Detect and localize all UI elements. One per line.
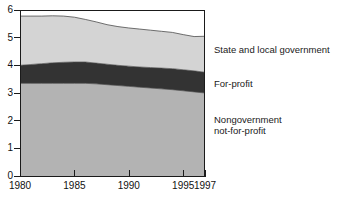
y-tick-mark-0	[14, 176, 20, 177]
series-label-nongovernment-not-for-profit: Nongovernment not-for-profit	[214, 114, 282, 136]
y-tick-label-6: 6	[1, 5, 13, 15]
x-tick-label-1990: 1990	[112, 180, 146, 191]
y-tick-label-2: 2	[1, 116, 13, 126]
y-tick-mark-6	[14, 10, 20, 11]
y-tick-mark-4	[14, 65, 20, 66]
x-tick-label-1980: 1980	[3, 180, 37, 191]
y-tick-mark-3	[14, 93, 20, 94]
y-tick-label-1: 1	[1, 143, 13, 153]
y-axis-line	[20, 10, 21, 177]
x-tick-mark-1995	[183, 170, 184, 177]
series-label-state-and-local-government: State and local government	[214, 44, 330, 55]
x-tick-mark-1990	[129, 170, 130, 177]
y-tick-label-4: 4	[1, 60, 13, 70]
area-band-nongovernment-not-for-profit	[20, 83, 205, 176]
y-tick-label-3: 3	[1, 88, 13, 98]
y-tick-mark-1	[14, 148, 20, 149]
y-tick-label-5: 5	[1, 33, 13, 43]
x-tick-mark-1985	[74, 170, 75, 177]
series-label-for-profit: For-profit	[214, 78, 253, 89]
stacked-area-chart: 0123456 19801985199019951997 State and l…	[0, 0, 349, 206]
x-tick-label-1985: 1985	[57, 180, 91, 191]
y-tick-mark-2	[14, 120, 20, 121]
x-tick-mark-1997	[205, 170, 206, 177]
plot-area	[20, 10, 205, 176]
x-tick-label-1997: 1997	[188, 180, 222, 191]
y-axis-tick-labels: 0123456	[0, 0, 13, 206]
plot-svg	[20, 10, 205, 176]
x-axis-line	[20, 176, 206, 177]
y-tick-mark-5	[14, 37, 20, 38]
